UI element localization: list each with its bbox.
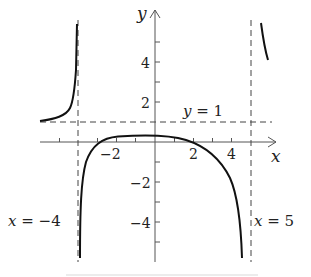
x-axis xyxy=(40,137,276,147)
tick-label-x-neg2: −2 xyxy=(100,146,121,162)
tick-label-y4: 4 xyxy=(141,55,150,71)
tick-label-x4: 4 xyxy=(227,146,236,162)
y-axis-label: y xyxy=(136,3,147,23)
x-axis-label: x xyxy=(271,146,281,166)
vertical-asymptote-left-label: x = −4 xyxy=(8,212,61,230)
x-axis-ticks xyxy=(60,138,232,142)
rational-function-graph: y x 4 2 −2 −4 −2 2 4 y = 1 x = −4 x = 5 xyxy=(0,0,311,277)
tick-label-y-neg4: −4 xyxy=(130,215,151,231)
vertical-asymptote-right-label: x = 5 xyxy=(254,212,294,230)
curve-right-branch xyxy=(261,23,268,60)
horizontal-asymptote-label: y = 1 xyxy=(182,102,223,120)
tick-label-x2: 2 xyxy=(189,146,198,162)
tick-label-y2: 2 xyxy=(141,95,150,111)
tick-label-y-neg2: −2 xyxy=(130,175,151,191)
curve-left-branch xyxy=(40,24,77,121)
